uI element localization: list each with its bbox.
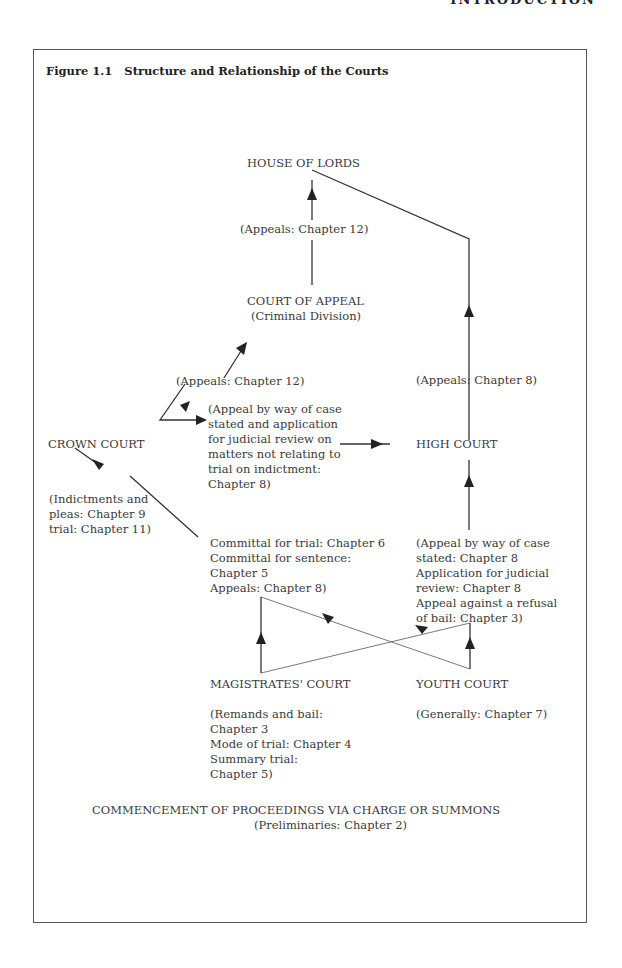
node-high-court: HIGH COURT [416,437,498,452]
node-magistrates-court: MAGISTRATES' COURT [210,677,351,692]
note-youth: (Generally: Chapter 7) [416,707,547,722]
label-appeals-ch8-right: (Appeals: Chapter 8) [416,373,537,388]
node-house-of-lords: HOUSE OF LORDS [247,156,360,171]
label-criminal-division: (Criminal Division) [251,309,361,324]
note-committal: Committal for trial: Chapter 6 Committal… [210,536,385,596]
note-magistrates: (Remands and bail: Chapter 3 Mode of tri… [210,707,352,782]
label-appeals-ch12-left: (Appeals: Chapter 12) [176,374,304,389]
node-crown-court: CROWN COURT [48,437,144,452]
node-commencement: COMMENCEMENT OF PROCEEDINGS VIA CHARGE O… [92,803,500,818]
label-preliminaries: (Preliminaries: Chapter 2) [254,818,407,833]
label-appeals-ch12-top: (Appeals: Chapter 12) [240,222,368,237]
node-youth-court: YOUTH COURT [416,677,508,692]
note-high-court-appeals: (Appeal by way of case stated: Chapter 8… [416,536,557,626]
note-indictments: (Indictments and pleas: Chapter 9 trial:… [49,492,151,537]
note-case-stated: (Appeal by way of case stated and applic… [208,402,342,492]
node-court-of-appeal: COURT OF APPEAL [247,294,364,309]
